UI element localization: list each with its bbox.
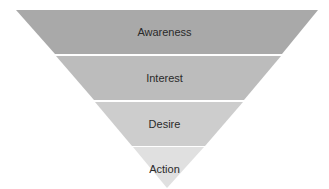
funnel-label-desire: Desire bbox=[0, 118, 329, 130]
funnel-label-interest: Interest bbox=[0, 72, 329, 84]
funnel-label-awareness: Awareness bbox=[0, 26, 329, 38]
funnel-label-action: Action bbox=[0, 163, 329, 175]
